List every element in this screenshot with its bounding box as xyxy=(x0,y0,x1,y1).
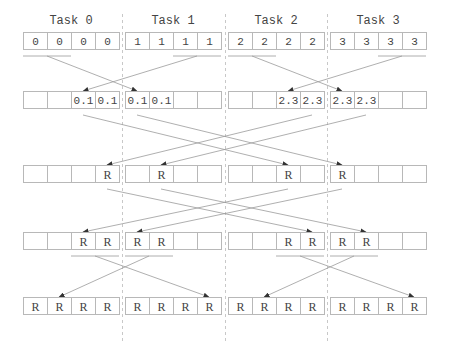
cell-value: 3 xyxy=(363,36,370,48)
task-buffer: R xyxy=(229,166,325,183)
buffer-cell xyxy=(72,166,96,183)
task-buffer: RR xyxy=(126,233,222,250)
buffer-cell xyxy=(48,92,72,109)
cell-value: 0 xyxy=(56,36,63,48)
cell-value: R xyxy=(386,300,394,314)
cell-value: 2 xyxy=(261,36,268,48)
task-buffer: 3333 xyxy=(331,33,427,50)
cell-value: R xyxy=(133,300,141,314)
send-arrow xyxy=(252,56,342,91)
send-arrow xyxy=(59,256,149,297)
cell-value: R xyxy=(338,168,346,182)
task-buffer: 0.10.1 xyxy=(24,92,120,109)
cell-value: R xyxy=(362,300,370,314)
cell-value: R xyxy=(157,300,165,314)
cell-value: 2.3 xyxy=(279,95,299,107)
buffer-cell xyxy=(355,166,379,183)
cell-value: 2 xyxy=(285,36,292,48)
cell-value: 2.3 xyxy=(303,95,323,107)
task-label: Task 2 xyxy=(254,14,297,28)
cell-value: R xyxy=(338,235,346,249)
task-label: Task 0 xyxy=(49,14,92,28)
buffer-cell xyxy=(379,92,403,109)
cell-value: R xyxy=(55,300,63,314)
cell-value: 0 xyxy=(104,36,111,48)
cell-value: R xyxy=(260,300,268,314)
buffer-cell xyxy=(229,233,253,250)
cell-value: 2.3 xyxy=(357,95,377,107)
task-buffer: 1111 xyxy=(126,33,222,50)
cell-value: R xyxy=(103,235,111,249)
buffer-cell xyxy=(229,92,253,109)
cell-value: R xyxy=(79,300,87,314)
send-arrow xyxy=(107,189,312,232)
task-buffer: R xyxy=(24,166,120,183)
task-label: Task 3 xyxy=(356,14,399,28)
send-arrow xyxy=(161,115,366,165)
buffer-cell xyxy=(24,166,48,183)
buffer-cell xyxy=(48,233,72,250)
cell-value: R xyxy=(205,300,213,314)
cell-value: R xyxy=(157,168,165,182)
cell-value: R xyxy=(284,235,292,249)
buffer-cell xyxy=(48,166,72,183)
cell-value: R xyxy=(410,300,418,314)
task-buffer: RRRR xyxy=(331,298,427,315)
cell-value: R xyxy=(308,235,316,249)
buffer-cell xyxy=(198,166,222,183)
task-buffer: RRRR xyxy=(24,298,120,315)
task-buffer: 0000 xyxy=(24,33,120,50)
cell-value: R xyxy=(157,235,165,249)
cell-value: 1 xyxy=(206,36,213,48)
task-buffer: RR xyxy=(229,233,325,250)
buffer-cell xyxy=(403,166,427,183)
task-labels: Task 0Task 1Task 2Task 3 xyxy=(49,14,399,28)
task-buffer: R xyxy=(126,166,222,183)
cell-value: 1 xyxy=(182,36,189,48)
task-buffer: RRRR xyxy=(229,298,325,315)
cell-value: 0 xyxy=(32,36,39,48)
task-buffer: 2.32.3 xyxy=(229,92,325,109)
cell-value: R xyxy=(103,300,111,314)
buffer-cell xyxy=(253,233,277,250)
send-arrow xyxy=(83,189,288,232)
cell-value: R xyxy=(284,300,292,314)
cell-value: R xyxy=(103,168,111,182)
cell-value: R xyxy=(31,300,39,314)
task-buffer: 2222 xyxy=(229,33,325,50)
cell-value: R xyxy=(308,300,316,314)
buffer-cell xyxy=(379,166,403,183)
cell-value: 2 xyxy=(237,36,244,48)
cell-value: 1 xyxy=(134,36,141,48)
send-arrow xyxy=(288,56,402,91)
buffer-cell xyxy=(229,166,253,183)
send-arrow xyxy=(47,56,137,91)
cell-value: R xyxy=(181,300,189,314)
buffer-cell xyxy=(253,92,277,109)
task-label: Task 1 xyxy=(151,14,194,28)
buffer-cell xyxy=(126,166,150,183)
send-arrow xyxy=(107,115,312,165)
cell-value: 3 xyxy=(339,36,346,48)
buffer-cell xyxy=(24,92,48,109)
send-arrow xyxy=(161,189,366,232)
cell-value: 3 xyxy=(387,36,394,48)
task-buffer: 0.10.1 xyxy=(126,92,222,109)
send-arrow xyxy=(137,189,342,232)
cell-value: 0.1 xyxy=(98,95,118,107)
cell-value: 1 xyxy=(158,36,165,48)
buffer-cell xyxy=(253,166,277,183)
buffer-cell xyxy=(24,233,48,250)
send-arrow xyxy=(300,256,414,297)
cell-value: R xyxy=(236,300,244,314)
cell-value: R xyxy=(79,235,87,249)
send-arrow xyxy=(83,56,197,91)
buffer-cell xyxy=(403,233,427,250)
buffer-cell xyxy=(174,92,198,109)
send-arrow xyxy=(264,256,354,297)
cell-value: 0.1 xyxy=(74,95,94,107)
cell-value: R xyxy=(284,168,292,182)
cell-value: 0.1 xyxy=(128,95,148,107)
task-buffer: RR xyxy=(24,233,120,250)
buffer-cell xyxy=(198,233,222,250)
